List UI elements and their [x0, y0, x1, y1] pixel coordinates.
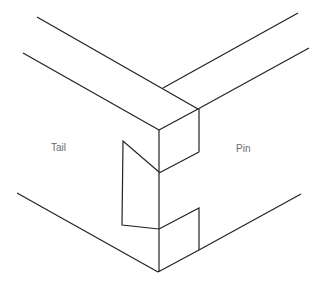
- tail-board-top-back-edge: [37, 17, 198, 109]
- lower-pin-outline: [159, 208, 199, 250]
- tail-board-bottom-edge: [17, 193, 158, 272]
- tail-label: Tail: [51, 143, 66, 153]
- pin-board-top-back-edge: [163, 13, 298, 88]
- dovetail-drawing: [0, 0, 320, 283]
- pin-board-top-front-edge: [198, 48, 309, 109]
- tail-outline: [122, 141, 159, 229]
- pin-board-bottom-edge: [199, 194, 301, 250]
- corner-top-edge: [159, 109, 198, 130]
- tail-board-top-front-edge: [23, 53, 159, 130]
- corner-bottom-right-edge: [158, 250, 199, 272]
- pin-label: Pin: [236, 144, 250, 154]
- upper-pin-bottom-edge: [159, 152, 199, 173]
